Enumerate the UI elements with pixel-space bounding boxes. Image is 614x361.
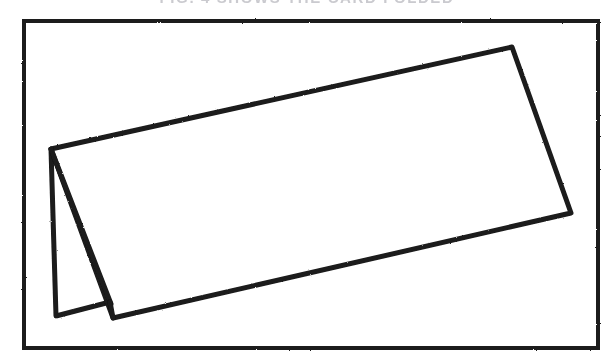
scanned-figure-page: FIG. 4 SHOWS THE CARD FOLDED	[0, 0, 614, 361]
folded-card-figure	[0, 0, 614, 361]
fold-foot-edge	[110, 302, 113, 318]
